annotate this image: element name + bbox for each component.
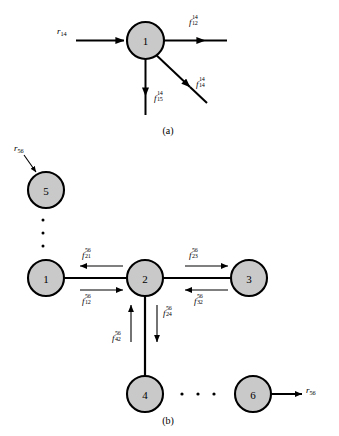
vertical-ellipsis-dot <box>42 232 45 235</box>
panel-b-flow-12-label: f5612 <box>82 293 91 306</box>
panel-a-inflow-label: r14 <box>57 27 67 37</box>
panel-b-node-1-label: 1 <box>43 273 49 285</box>
horizontal-ellipsis-dot <box>212 392 215 395</box>
panel-b-node-3-label: 3 <box>246 273 252 285</box>
panel-b-node-2-label: 2 <box>142 273 148 285</box>
horizontal-ellipsis-dot <box>180 392 183 395</box>
panel-a-flow-15-label: f1415 <box>154 90 163 103</box>
panel-a-caption: (a) <box>162 125 173 137</box>
panel-b-inflow-label-node5: r56 <box>14 144 24 154</box>
panel-b-node-4-label: 4 <box>142 389 148 401</box>
panel-a-outflow-tail-14 <box>190 87 207 103</box>
panel-a-flow-14-label: f1414 <box>196 76 205 89</box>
panel-b-inflow-arrow-node5 <box>24 155 36 172</box>
panel-b-flow-32-label: f5632 <box>194 293 203 306</box>
panel-b-node-5-label: 5 <box>43 185 49 197</box>
panel-b-flow-23-label: f5623 <box>189 247 198 260</box>
panel-b-flow-42-label: f5642 <box>112 330 121 343</box>
panel-b-node-6-label: 6 <box>250 389 256 401</box>
panel-b-outflow-label-node6: r56 <box>306 386 316 396</box>
panel-b-flow-21-label: f5621 <box>82 247 91 260</box>
panel-a-outflow-arrow-14 <box>153 52 190 87</box>
figure-canvas: 1 5 1 2 3 4 6 (a) (b) <box>0 0 339 436</box>
panel-a-node-1-label: 1 <box>143 35 149 47</box>
horizontal-ellipsis-dot <box>196 392 199 395</box>
figure-root: 1 5 1 2 3 4 6 (a) (b) r14 f1412 f1414 f1… <box>0 0 339 436</box>
panel-a-flow-12-label: f1412 <box>189 14 198 27</box>
vertical-ellipsis-dot <box>42 245 45 248</box>
panel-b-caption: (b) <box>162 415 174 427</box>
vertical-ellipsis-dot <box>42 219 45 222</box>
panel-b-flow-24-label: f5624 <box>163 305 172 318</box>
